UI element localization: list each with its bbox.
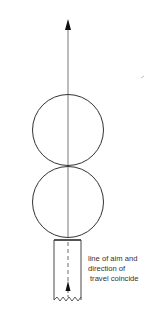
caption: line of aim and direction of travel coin… bbox=[88, 254, 139, 284]
break-zigzag bbox=[54, 297, 81, 301]
caption-line-3: travel coincide bbox=[88, 274, 139, 284]
caption-line-1: line of aim and bbox=[88, 254, 139, 264]
arrow-up-small-icon bbox=[66, 281, 71, 291]
speck bbox=[141, 76, 144, 78]
caption-line-2: direction of bbox=[88, 264, 139, 274]
arrow-up-icon bbox=[65, 19, 71, 30]
